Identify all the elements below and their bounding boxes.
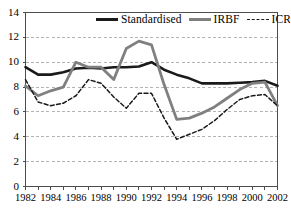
y-tick-label: 12	[1, 31, 19, 42]
x-tick-label: 1982	[13, 192, 39, 203]
line-chart-plot	[0, 0, 290, 216]
legend-item-standardised: Standardised	[96, 13, 182, 25]
x-tick-label: 1984	[38, 192, 64, 203]
legend-item-icrm: ICRM	[247, 13, 290, 25]
legend-label-standardised: Standardised	[121, 13, 182, 25]
x-tick-label: 1998	[214, 192, 240, 203]
legend-swatch-icrm-icon	[247, 19, 269, 20]
legend-item-irbf: IRBF	[189, 13, 240, 25]
legend-swatch-standardised-icon	[96, 18, 118, 21]
y-tick-label: 0	[1, 181, 19, 192]
x-axis-ticks	[26, 187, 278, 191]
series-line-irbf	[26, 41, 278, 119]
chart-legend: Standardised IRBF ICRM	[96, 13, 290, 25]
x-tick-label: 2000	[239, 192, 265, 203]
x-tick-label: 1990	[113, 192, 139, 203]
series-line-standardised	[26, 62, 278, 86]
chart-container: 02468101214 1982198419861988199019921994…	[0, 0, 290, 216]
y-tick-label: 4	[1, 131, 19, 142]
y-tick-label: 6	[1, 106, 19, 117]
x-tick-label: 1986	[63, 192, 89, 203]
legend-label-irbf: IRBF	[214, 13, 240, 25]
legend-swatch-irbf-icon	[189, 18, 211, 21]
x-tick-label: 1994	[164, 192, 190, 203]
y-tick-label: 14	[1, 7, 19, 18]
x-tick-label: 1996	[189, 192, 215, 203]
data-series-group	[26, 41, 278, 139]
y-tick-label: 8	[1, 81, 19, 92]
y-tick-label: 10	[1, 56, 19, 67]
x-tick-label: 1988	[88, 192, 114, 203]
x-tick-label: 1992	[139, 192, 165, 203]
y-tick-label: 2	[1, 156, 19, 167]
legend-label-icrm: ICRM	[272, 13, 290, 25]
x-tick-label: 2002	[265, 192, 291, 203]
